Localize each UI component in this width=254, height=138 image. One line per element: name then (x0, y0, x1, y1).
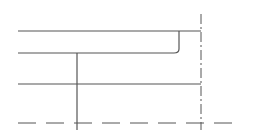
rounded-corner (174, 49, 179, 53)
line-diagram (0, 0, 254, 138)
